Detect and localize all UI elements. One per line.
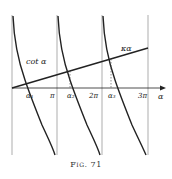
figure-caption: Fig. 71 xyxy=(0,160,172,169)
line-label: κα xyxy=(120,44,132,53)
cot-curves xyxy=(13,16,146,155)
tick-2pi: 2π xyxy=(88,92,98,100)
axis-label: α xyxy=(158,92,164,101)
asymptotes xyxy=(12,15,148,155)
tick-3pi: 3π xyxy=(138,92,147,100)
root-label-1: α₁ xyxy=(26,92,34,100)
root-label-3: α₃ xyxy=(108,92,116,100)
root-label-2: α₂ xyxy=(67,92,75,100)
curve-label: cot α xyxy=(26,57,47,66)
x-axis xyxy=(12,86,166,91)
kappa-alpha-line xyxy=(12,48,148,88)
root-drops xyxy=(70,59,111,88)
cot-diagram: cot α κα α α₁ π α₂ 2π α₃ 3π xyxy=(0,0,172,179)
tick-pi: π xyxy=(49,92,55,100)
